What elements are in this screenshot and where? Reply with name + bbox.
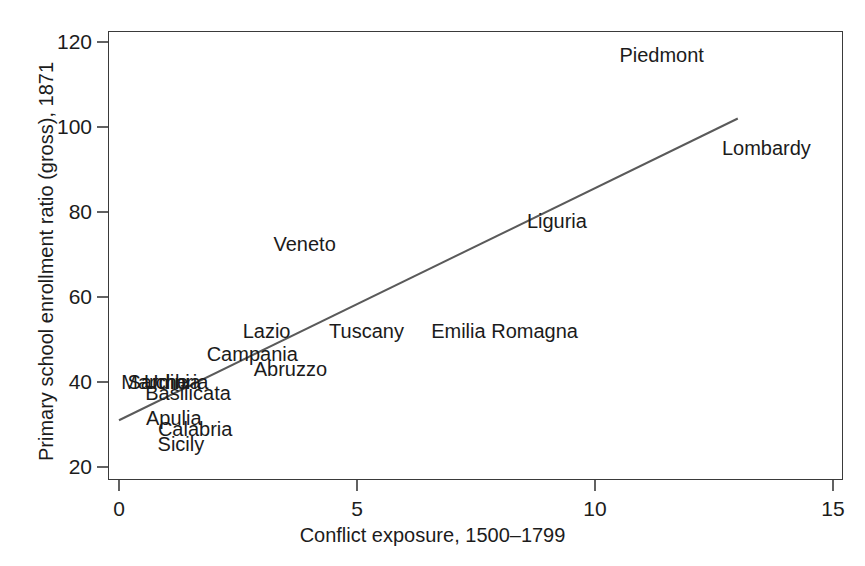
point-label-liguria: Liguria — [527, 211, 587, 231]
chart-figure: 20406080100120 051015 PiedmontLombardyLi… — [0, 0, 865, 566]
point-label-basilicata: Basilicata — [145, 383, 231, 403]
point-label-lazio: Lazio — [243, 321, 291, 341]
y-axis-ticks — [97, 42, 108, 467]
x-tick-label: 5 — [327, 498, 387, 519]
y-axis-title: Primary school enrollment ratio (gross),… — [35, 2, 58, 522]
plot-frame — [108, 31, 843, 480]
point-label-lombardy: Lombardy — [722, 138, 811, 158]
x-axis-ticks — [119, 480, 833, 491]
point-label-veneto: Veneto — [273, 234, 335, 254]
x-tick-label: 10 — [565, 498, 625, 519]
point-label-sicily: Sicily — [158, 434, 205, 454]
point-label-abruzzo: Abruzzo — [254, 359, 327, 379]
x-tick-label: 0 — [89, 498, 149, 519]
x-axis-title: Conflict exposure, 1500–1799 — [0, 524, 865, 547]
point-label-piedmont: Piedmont — [619, 45, 704, 65]
point-label-tuscany: Tuscany — [329, 321, 404, 341]
x-tick-label: 15 — [803, 498, 863, 519]
point-label-emilia-romagna: Emilia Romagna — [431, 321, 578, 341]
